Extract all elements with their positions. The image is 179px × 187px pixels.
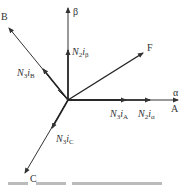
alpha-axis-label: α — [173, 87, 179, 98]
caption-fragment — [36, 182, 66, 185]
n3-i-c-label: N3iC — [55, 133, 74, 146]
caption-fragment — [72, 182, 162, 185]
n2-i-beta-label: N2iβ — [71, 46, 89, 59]
phase-a-label: A — [171, 103, 179, 114]
n2-i-alpha-label: N2iα — [137, 108, 155, 121]
n3-i-c-vector — [52, 100, 68, 128]
origin-stub — [58, 90, 68, 100]
caption-fragment — [8, 182, 28, 185]
cropped-caption — [0, 181, 179, 187]
n3-i-a-label: N3iA — [109, 108, 128, 121]
beta-axis-label: β — [73, 6, 78, 17]
f-vector — [68, 53, 143, 100]
n3-i-b-vector — [43, 69, 68, 100]
n3-i-b-label: N3iB — [16, 67, 35, 80]
phase-b-label: B — [1, 11, 8, 22]
vector-diagram: β α A B F C N2iβ N3iB N3iA N2iα N3iC — [0, 0, 179, 187]
f-label: F — [147, 42, 153, 53]
